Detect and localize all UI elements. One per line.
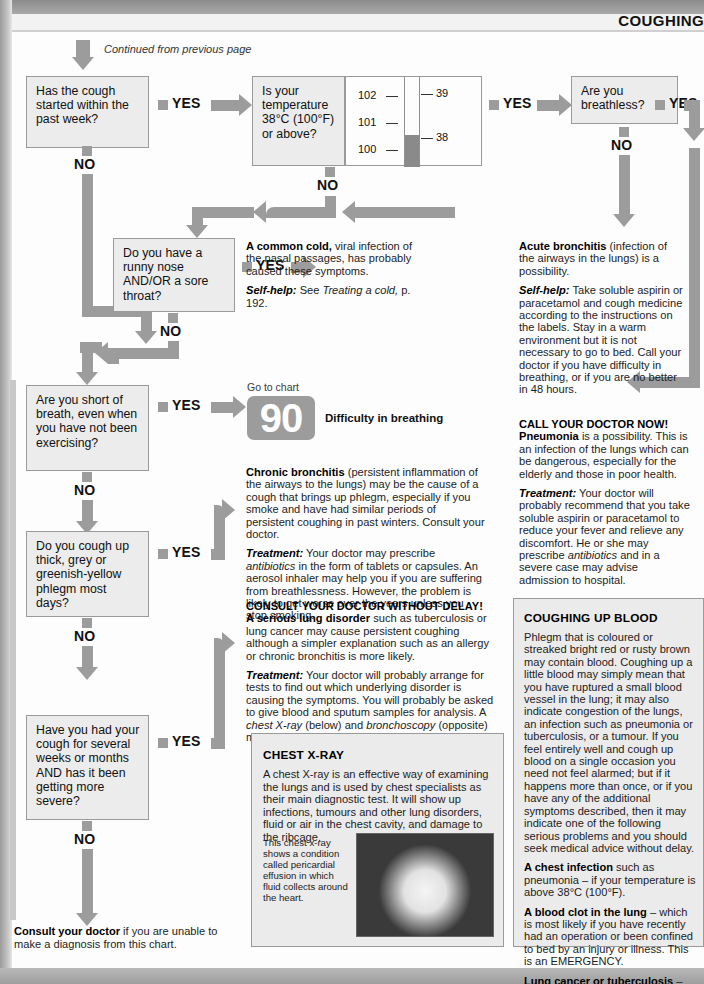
- q1-yes-arrow-head: [239, 94, 252, 116]
- coughing-up-blood-panel-title: COUGHING UP BLOOD: [524, 611, 658, 625]
- no-marker-q4: [168, 313, 178, 323]
- chart-number-badge[interactable]: 90: [247, 396, 315, 440]
- outcome-serious-lung-disorder: CONSULT YOUR DOCTOR WITHOUT DELAY! A ser…: [246, 600, 496, 743]
- thermometer-f-tickmark-102: [386, 96, 398, 97]
- q5-yes-head: [233, 396, 246, 418]
- yes-marker-q1: [158, 100, 168, 110]
- question-box-phlegm[interactable]: Do you cough up thick, grey or greenish-…: [26, 531, 149, 617]
- chronic-bronchitis-lead: Chronic bronchitis: [246, 466, 345, 478]
- thermometer-f-tick-101: 101: [358, 116, 376, 128]
- q5-yes-shaft: [211, 402, 235, 413]
- chest-xray-image-caption: This chest x-ray shows a condition calle…: [263, 837, 351, 903]
- common-cold-lead: A common cold,: [246, 240, 332, 252]
- q1-no-arrow-head: [135, 331, 157, 344]
- acute-bronchitis-selfhelp-label: Self-help:: [519, 284, 570, 296]
- yes-marker-q5: [158, 402, 168, 412]
- yes-label-q1: YES: [172, 95, 201, 111]
- no-marker-q5: [82, 472, 92, 482]
- thermometer-graphic: 102 101 100 39 38: [345, 76, 482, 166]
- page-title: COUGHING: [618, 12, 704, 29]
- acute-bronchitis-lead: Acute bronchitis: [519, 240, 607, 252]
- coughing-up-blood-intro: Phlegm that is coloured or streaked brig…: [524, 631, 696, 854]
- no-label-q5: NO: [74, 482, 95, 498]
- question-box-runny-nose-sore-throat[interactable]: Do you have a runny nose AND/OR a sore t…: [113, 238, 235, 312]
- footer-note-lead: Consult your doctor: [14, 925, 120, 937]
- no-marker-q6: [82, 618, 92, 628]
- chart-page: COUGHING Continued from previous page Ha…: [0, 0, 704, 984]
- coughing-up-blood-panel: COUGHING UP BLOOD Phlegm that is coloure…: [513, 598, 704, 947]
- q3-no-shaft: [619, 155, 630, 217]
- blood-item2-lead: A blood clot in the lung: [524, 906, 647, 918]
- no-label-q2: NO: [317, 177, 338, 193]
- footer-consult-note: Consult your doctor if you are unable to…: [14, 925, 229, 950]
- no-marker-q1: [82, 146, 92, 156]
- right-return-lane-head: [342, 201, 355, 223]
- coughing-up-blood-content: Phlegm that is coloured or streaked brig…: [524, 631, 696, 984]
- thermometer-f-tickmark-100: [386, 150, 398, 151]
- q2-no-arrow-elbow: [266, 207, 336, 218]
- outcome-common-cold: A common cold, viral infection of the na…: [246, 240, 426, 309]
- yes-marker-q3: [655, 100, 665, 110]
- q7-no-shaft: [82, 849, 93, 916]
- q2-yes-arrow-shaft: [537, 100, 561, 111]
- thermometer-mercury: [405, 135, 419, 167]
- serious-lung-treatment-label: Treatment:: [246, 669, 303, 681]
- goto-chart-label: Go to chart: [247, 381, 299, 393]
- thermometer-c-tick-38: 38: [436, 131, 448, 143]
- q4-no-drop: [108, 348, 119, 364]
- outcome-pneumonia: CALL YOUR DOCTOR NOW! Pneumonia is a pos…: [519, 418, 691, 586]
- no-marker-q3: [619, 127, 629, 137]
- no-label-q4: NO: [160, 323, 181, 339]
- q6-no-head: [76, 667, 98, 680]
- return-lane-upper-head: [186, 225, 208, 238]
- acute-bronchitis-selfhelp-body: Take soluble aspirin or paracetamol and …: [519, 284, 683, 395]
- no-label-q7: NO: [74, 831, 95, 847]
- yes-marker-q7: [158, 738, 168, 748]
- pneumonia-treatment-italic: antibiotics: [568, 549, 617, 561]
- yes-label-q6: YES: [172, 544, 201, 560]
- q3-yes-head: [683, 128, 704, 141]
- blood-item3-lead: Lung cancer or tuberculosis: [524, 975, 673, 984]
- serious-lung-treatment-mid: (below) and: [302, 719, 366, 731]
- no-marker-q2: [325, 167, 335, 177]
- header-divider: [12, 30, 704, 32]
- chronic-bronchitis-treatment-label: Treatment:: [246, 547, 303, 559]
- serious-lung-treatment-italic-1: chest X-ray: [246, 719, 302, 731]
- chest-xray-panel: CHEST X-RAY A chest X-ray is an effectiv…: [251, 733, 504, 947]
- q7-yes-riser: [214, 638, 225, 749]
- q1-no-arrow-shaft: [82, 174, 93, 316]
- chest-xray-panel-title: CHEST X-RAY: [263, 748, 344, 762]
- thermometer-c-tick-39: 39: [436, 87, 448, 99]
- continued-arrow-head: [72, 57, 94, 70]
- chronic-bronchitis-treatment-a: Your doctor may prescribe: [303, 547, 435, 559]
- thermometer-f-tick-100: 100: [358, 143, 376, 155]
- right-rail-shaft: [689, 148, 700, 388]
- q4-no-merge-head: [76, 372, 98, 385]
- question-box-temperature[interactable]: Is your temperature 38°C (100°F) or abov…: [252, 76, 345, 166]
- thermometer-f-tickmark-101: [386, 123, 398, 124]
- outcome-acute-bronchitis: Acute bronchitis (infection of the airwa…: [519, 240, 683, 396]
- common-cold-selfhelp-italic: Treating a cold,: [322, 284, 398, 296]
- common-cold-selfhelp-label: Self-help:: [246, 284, 297, 296]
- no-label-q1: NO: [74, 156, 95, 172]
- q2-no-arrow-head: [253, 201, 266, 223]
- chest-xray-image: [356, 833, 494, 937]
- serious-lung-treatment-italic-2: bronchoscopy: [366, 719, 435, 731]
- scan-edge-top: [0, 0, 704, 14]
- yes-label-q7: YES: [172, 733, 201, 749]
- question-box-cough-duration-severity[interactable]: Have you had your cough for several week…: [26, 715, 149, 820]
- yes-label-q5: YES: [172, 397, 201, 413]
- serious-lung-lead: A serious lung disorder: [246, 612, 370, 624]
- pneumonia-treatment-label: Treatment:: [519, 487, 576, 499]
- outcome-chronic-bronchitis: Chronic bronchitis (persistent inflammat…: [246, 466, 486, 622]
- question-box-short-of-breath[interactable]: Are you short of breath, even when you h…: [26, 385, 149, 471]
- no-label-q3: NO: [611, 137, 632, 153]
- question-box-cough-started-past-week[interactable]: Has the cough started within the past we…: [26, 76, 149, 148]
- no-marker-q7: [82, 821, 92, 831]
- thermometer-c-tickmark-38: [421, 138, 433, 139]
- q3-no-head: [613, 214, 635, 227]
- q6-yes-head: [222, 499, 235, 521]
- chart-caption: Difficulty in breathing: [325, 412, 443, 424]
- thermometer-f-tick-102: 102: [358, 89, 376, 101]
- yes-marker-q2: [489, 100, 499, 110]
